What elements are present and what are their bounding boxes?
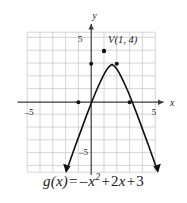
parabola-curve	[63, 48, 161, 174]
equation-term1-sign: –	[79, 173, 89, 189]
x-axis-tick-label-positive: 5	[152, 107, 157, 117]
vertex-label: V(1, 4)	[108, 34, 138, 46]
coordinate-plane-svg: 5 –5 –5 5 x y V(1, 4)	[0, 0, 187, 180]
point-root-left	[76, 100, 80, 104]
x-axis-label: x	[169, 98, 175, 108]
equation-operator-2: +	[126, 173, 137, 189]
point-vertex	[102, 49, 106, 53]
y-axis-label: y	[91, 11, 97, 21]
y-axis-tick-label-positive: 5	[78, 34, 83, 44]
x-axis-tick-label-negative: –5	[24, 107, 35, 117]
graph-figure: 5 –5 –5 5 x y V(1, 4)	[0, 0, 187, 180]
equation-operator-1: +	[100, 173, 111, 189]
equation-term2-base: x	[119, 173, 126, 189]
point-root-right	[128, 100, 132, 104]
x-axis-arrow-icon	[158, 100, 164, 105]
y-axis-arrow-icon	[89, 24, 94, 30]
y-axis-tick-label-negative: –5	[78, 147, 89, 157]
equation-equals: =	[68, 173, 79, 189]
equation-lhs: g(x)	[43, 173, 68, 189]
equation-caption: g(x)=–x2+2x+3	[0, 173, 187, 190]
point-y-intercept	[89, 62, 93, 66]
equation-term3: 3	[136, 173, 144, 189]
figure-page: 5 –5 –5 5 x y V(1, 4) g(x)=–x2+2x+3	[0, 0, 187, 203]
point-symmetric	[115, 62, 119, 66]
equation-term2-coefficient: 2	[111, 173, 119, 189]
